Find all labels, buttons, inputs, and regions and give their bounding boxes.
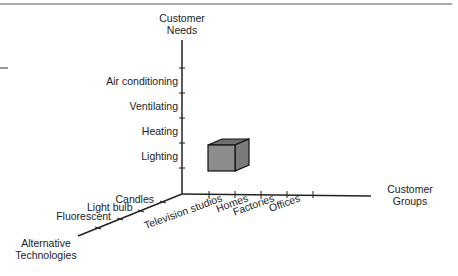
vertical-tick-label: Air conditioning (106, 75, 178, 87)
cube-front-face (208, 145, 235, 171)
diagonal-axis-title-line2: Technologies (15, 249, 76, 261)
cube-side-face (235, 139, 249, 171)
horizontal-tick-label: Television studios (142, 192, 223, 231)
horizontal-axis-title-line1: Customer (387, 183, 433, 195)
vertical-axis-title-line2: Needs (167, 24, 197, 36)
horizontal-axis-title-line2: Groups (393, 195, 427, 207)
cube (208, 139, 249, 171)
vertical-tick-label: Heating (142, 125, 178, 137)
diagonal-tick-label: Fluorescent (56, 210, 111, 222)
vertical-tick-label: Lighting (141, 150, 178, 162)
vertical-tick-label: Ventilating (130, 100, 179, 112)
business-definition-diagram: LightingHeatingVentilatingAir conditioni… (0, 0, 458, 276)
diagonal-axis-title-line1: Alternative (21, 237, 71, 249)
vertical-axis-title-line1: Customer (159, 12, 205, 24)
